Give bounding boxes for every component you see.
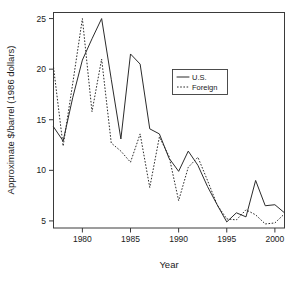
x-tick-label: 1990: [169, 234, 188, 244]
x-tick-label: 1985: [121, 234, 140, 244]
y-tick-label: 5: [41, 216, 46, 226]
chart-figure: 510152025 19801985199019952000 Year Appr…: [0, 0, 299, 281]
chart-legend: U.S. Foreign: [173, 70, 228, 95]
x-tick-label: 2000: [265, 234, 284, 244]
x-tick-label: 1980: [73, 234, 92, 244]
y-tick-label: 20: [37, 64, 47, 74]
plot-frame: [54, 13, 285, 229]
y-tick-label: 15: [37, 115, 47, 125]
x-tick-label: 1995: [217, 234, 236, 244]
y-axis-title: Approximate $/barrel (1986 dollars): [5, 46, 16, 195]
legend-label-us: U.S.: [192, 73, 207, 82]
legend-label-foreign: Foreign: [192, 83, 217, 92]
y-tick-label: 25: [37, 14, 47, 24]
x-axis-ticks: 19801985199019952000: [73, 228, 285, 244]
y-tick-label: 10: [37, 165, 47, 175]
series-line-foreign: [54, 19, 285, 224]
y-axis-ticks: 510152025: [37, 14, 54, 226]
x-axis-title: Year: [159, 259, 178, 270]
series-line-us: [54, 19, 285, 222]
line-chart: 510152025 19801985199019952000 Year Appr…: [0, 0, 299, 281]
